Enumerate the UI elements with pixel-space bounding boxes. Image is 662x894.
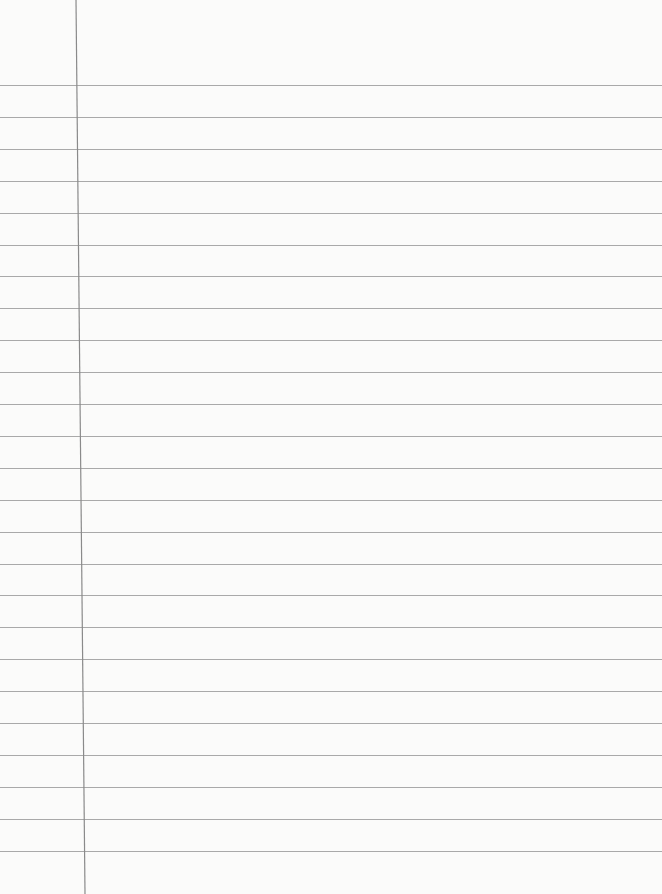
lined-paper — [0, 0, 662, 894]
margin-line — [0, 0, 662, 894]
